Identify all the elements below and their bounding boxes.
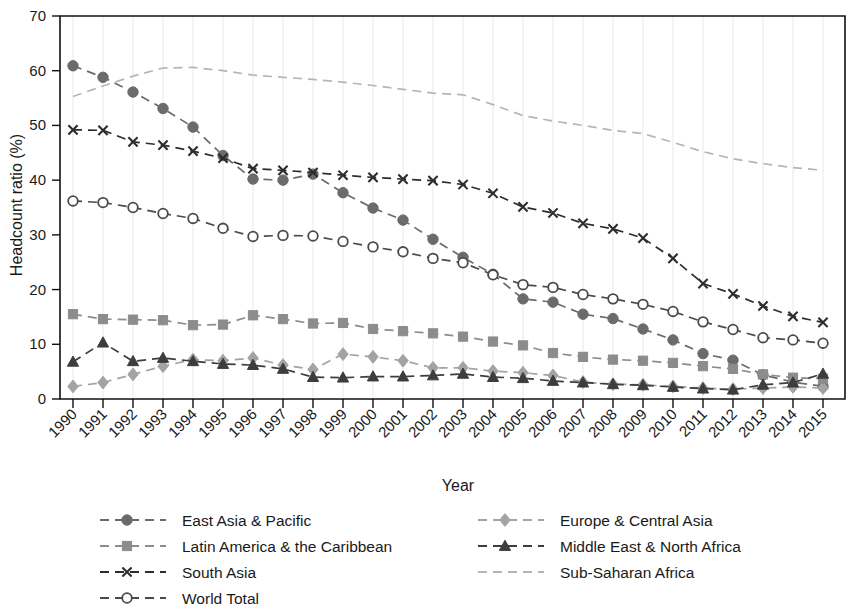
y-tick-label: 60: [29, 62, 46, 79]
data-point-marker: [608, 313, 618, 323]
chart-container: 010203040506070 199019911992199319941995…: [0, 0, 865, 611]
data-point-marker: [728, 355, 738, 365]
data-point-marker: [188, 122, 198, 132]
data-point-marker: [122, 541, 131, 550]
x-tick-label: 2001: [375, 405, 411, 441]
data-point-marker: [188, 321, 197, 330]
x-tick-label: 1990: [45, 405, 81, 441]
data-point-marker: [128, 87, 138, 97]
x-tick-label: 1999: [315, 405, 351, 441]
x-tick-label: 1992: [105, 405, 141, 441]
data-point-marker: [548, 283, 558, 293]
x-tick-label: 2009: [615, 405, 651, 441]
series-middle-east-north-africa: [67, 337, 828, 394]
legend-item-world-total[interactable]: World Total: [100, 590, 259, 607]
series-line: [73, 201, 823, 343]
data-point-marker: [248, 232, 258, 242]
legend-label: East Asia & Pacific: [182, 512, 311, 529]
data-point-marker: [67, 356, 78, 366]
data-point-marker: [157, 352, 168, 362]
y-tick-label: 10: [29, 335, 46, 352]
data-point-marker: [398, 215, 408, 225]
data-point-marker: [278, 175, 288, 185]
data-point-marker: [98, 72, 108, 82]
data-point-marker: [398, 247, 408, 257]
data-point-marker: [158, 316, 167, 325]
data-point-marker: [98, 376, 108, 389]
series-east-asia-pacific: [68, 61, 828, 392]
data-point-marker: [428, 234, 438, 244]
data-point-marker: [758, 333, 768, 343]
data-point-marker: [128, 368, 138, 381]
data-point-marker: [788, 335, 798, 345]
x-tick-label: 2008: [585, 405, 621, 441]
x-tick-label: 1995: [195, 405, 231, 441]
data-point-marker: [818, 338, 828, 348]
x-tick-label: 2013: [735, 405, 771, 441]
legend-item-latin-america-the-caribbean[interactable]: Latin America & the Caribbean: [100, 538, 392, 555]
series-world-total: [68, 196, 828, 348]
data-point-marker: [668, 358, 677, 367]
legend-item-south-asia[interactable]: South Asia: [100, 564, 256, 581]
legend-item-europe-central-asia[interactable]: Europe & Central Asia: [478, 512, 713, 529]
data-point-marker: [638, 300, 648, 310]
data-point-marker: [458, 258, 468, 268]
data-point-marker: [428, 329, 437, 338]
data-point-marker: [817, 368, 828, 378]
x-tick-label: 1997: [255, 405, 291, 441]
data-point-marker: [248, 311, 257, 320]
x-tick-label: 1996: [225, 405, 261, 441]
chart-legend: East Asia & PacificLatin America & the C…: [100, 512, 741, 607]
series-sub-saharan-africa: [73, 67, 823, 170]
data-point-marker: [122, 593, 132, 603]
legend-label: Middle East & North Africa: [560, 538, 741, 555]
x-tick-label: 2002: [405, 405, 441, 441]
series-line: [73, 343, 823, 390]
data-point-marker: [698, 348, 708, 358]
x-tick-label: 2005: [495, 405, 531, 441]
data-point-marker: [218, 223, 228, 233]
data-point-marker: [278, 315, 287, 324]
series-line: [73, 354, 823, 389]
data-point-marker: [548, 297, 558, 307]
x-tick-label: 2007: [555, 405, 591, 441]
legend-item-east-asia-pacific[interactable]: East Asia & Pacific: [100, 512, 311, 529]
x-tick-label: 2004: [465, 405, 501, 441]
y-tick-label: 30: [29, 226, 46, 243]
legend-item-sub-saharan-africa[interactable]: Sub-Saharan Africa: [478, 564, 695, 581]
x-tick-label: 2014: [765, 405, 801, 441]
x-tick-label: 2006: [525, 405, 561, 441]
data-point-marker: [278, 231, 288, 241]
data-point-marker: [608, 294, 618, 304]
y-tick-label: 20: [29, 281, 46, 298]
x-tick-label: 1993: [135, 405, 171, 441]
data-point-marker: [338, 348, 348, 361]
legend-label: Europe & Central Asia: [560, 512, 713, 529]
data-point-marker: [500, 514, 510, 527]
data-point-marker: [188, 214, 198, 224]
data-point-marker: [308, 319, 317, 328]
y-tick-label: 0: [38, 390, 46, 407]
data-point-marker: [728, 325, 738, 335]
data-point-marker: [218, 320, 227, 329]
data-point-marker: [97, 337, 108, 347]
data-point-marker: [368, 350, 378, 363]
legend-item-middle-east-north-africa[interactable]: Middle East & North Africa: [478, 538, 741, 555]
data-point-marker: [398, 327, 407, 336]
data-point-marker: [698, 362, 707, 371]
data-point-marker: [518, 280, 528, 290]
data-point-marker: [248, 174, 258, 184]
y-tick-label: 50: [29, 116, 46, 133]
data-point-marker: [758, 370, 767, 379]
series-line: [73, 66, 823, 387]
data-point-marker: [68, 196, 78, 206]
x-tick-label: 2012: [705, 405, 741, 441]
data-point-marker: [728, 364, 737, 373]
data-point-marker: [428, 254, 438, 264]
data-point-marker: [308, 169, 318, 179]
data-point-marker: [548, 348, 557, 357]
data-point-marker: [578, 290, 588, 300]
x-tick-label: 1998: [285, 405, 321, 441]
data-point-marker: [698, 317, 708, 327]
data-point-marker: [668, 335, 678, 345]
